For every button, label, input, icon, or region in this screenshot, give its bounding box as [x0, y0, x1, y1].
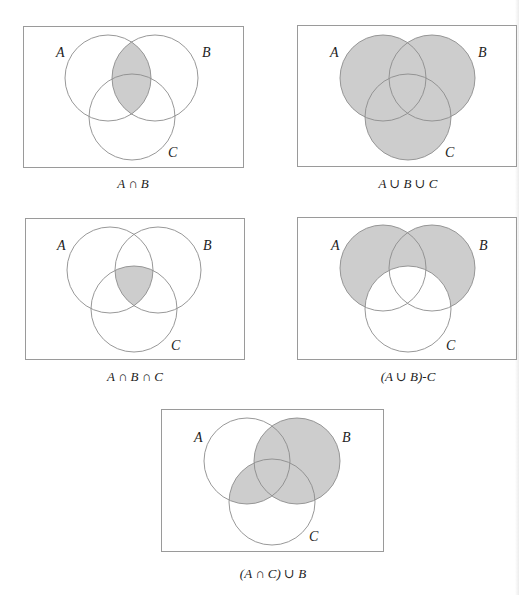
set-b-label: B — [202, 45, 211, 60]
set-c-label: C — [309, 529, 319, 544]
set-c-label: C — [171, 338, 181, 353]
panel-caption: A ∩ B ∩ C — [106, 369, 163, 384]
set-a-label: A — [329, 45, 339, 60]
panel-caption: A ∪ B ∪ C — [377, 176, 437, 191]
panel-a-intersect-b-intersect-c: A B C A ∩ B ∩ C — [26, 219, 245, 385]
set-b-label: B — [479, 238, 488, 253]
panel-a-intersect-c-union-b: A B C (A ∩ C) ∪ B — [162, 410, 384, 582]
set-a-label: A — [193, 430, 203, 445]
panel-caption: A ∩ B — [116, 176, 149, 191]
set-c-label: C — [445, 145, 455, 160]
set-a-label: A — [56, 238, 66, 253]
panel-a-intersect-b: A B C A ∩ B — [24, 27, 244, 192]
set-b-label: B — [342, 430, 351, 445]
set-c-label: C — [446, 338, 456, 353]
set-c-label: C — [168, 145, 178, 160]
set-b-label: B — [478, 45, 487, 60]
venn-figure: A B C A ∩ B A B C A ∪ B ∪ C A B C A ∩ B … — [0, 0, 519, 595]
panel-a-union-b-union-c: A B C A ∪ B ∪ C — [298, 26, 517, 192]
set-b-label: B — [203, 238, 212, 253]
set-a-label: A — [330, 238, 340, 253]
panel-caption: (A ∪ B)-C — [381, 369, 436, 384]
panel-caption: (A ∩ C) ∪ B — [240, 566, 306, 581]
panel-a-union-b-minus-c: A B C (A ∪ B)-C — [297, 217, 517, 384]
set-a-label: A — [55, 45, 65, 60]
